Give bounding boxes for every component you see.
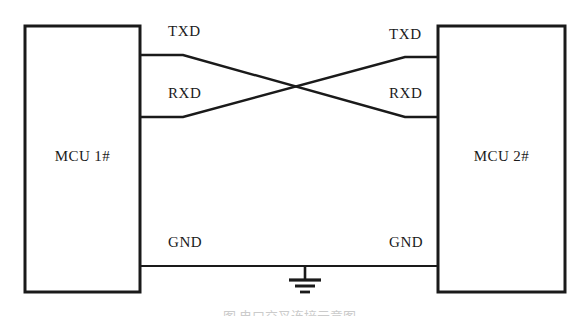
figure-caption: 图 串口交叉连接示意图	[0, 306, 579, 316]
mcu1-label: MCU 1#	[25, 148, 140, 165]
diagram-canvas: MCU 1# MCU 2# TXD RXD GND TXD RXD GND 图 …	[0, 0, 579, 316]
signal-label-gnd-right: GND	[389, 234, 423, 251]
signal-label-txd-right: TXD	[389, 26, 422, 43]
mcu2-label: MCU 2#	[438, 148, 565, 165]
signal-label-gnd-left: GND	[168, 234, 202, 251]
signal-label-rxd-left: RXD	[168, 85, 201, 102]
earth-ground-icon	[289, 266, 321, 292]
signal-label-rxd-right: RXD	[389, 85, 422, 102]
signal-label-txd-left: TXD	[168, 23, 201, 40]
